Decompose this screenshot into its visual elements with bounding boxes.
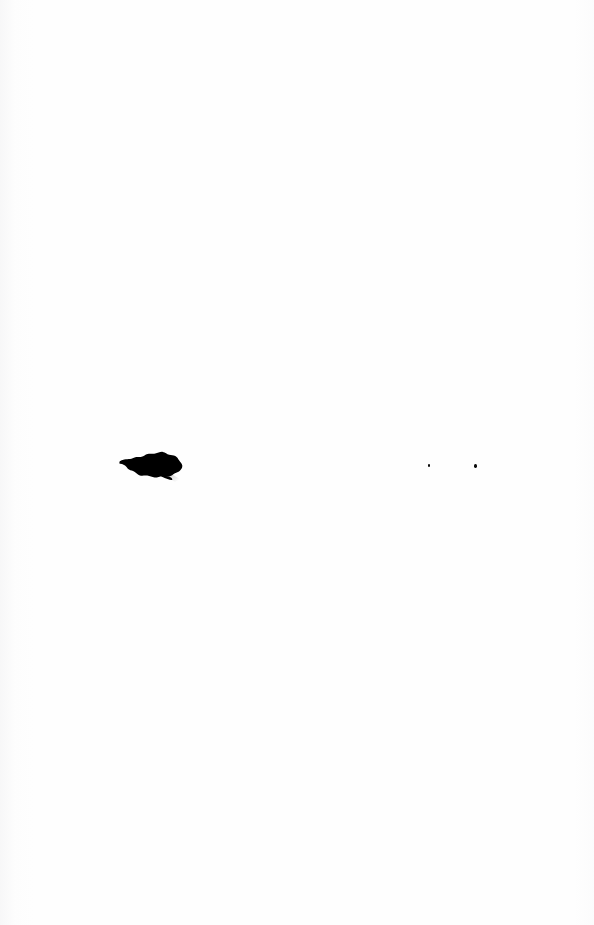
ink-blob-body [119,452,182,478]
scanned-page [0,0,594,925]
scan-edge-texture-right [574,0,594,925]
ink-speck-two [474,464,477,468]
ink-blob-graphic [118,446,190,488]
scan-edge-texture-left [0,0,34,925]
ink-speck-one [428,464,430,467]
ink-blob [118,446,190,488]
